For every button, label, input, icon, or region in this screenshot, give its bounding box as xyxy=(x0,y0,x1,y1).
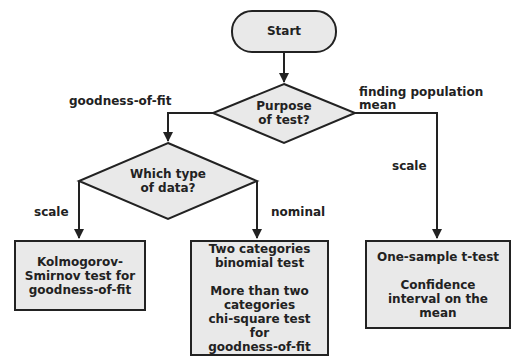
chi-line-4: for xyxy=(250,326,269,340)
binomial-chisquare-process-box: Two categories binomial test More than t… xyxy=(190,240,329,356)
binom-line-2: binomial test xyxy=(215,256,304,270)
ks-process-box: Kolmogorov- Smirnov test for goodness-of… xyxy=(14,240,146,311)
chi-line-5: goodness-of-fit xyxy=(208,340,310,354)
edge-label-scale-right: scale xyxy=(392,160,427,173)
datatype-line-2: of data? xyxy=(108,181,228,195)
finding-line-2: mean xyxy=(359,99,483,112)
ttest-line-1: One-sample t-test xyxy=(377,250,499,264)
ttest-process-box: One-sample t-test Confidence interval on… xyxy=(365,240,511,329)
start-label: Start xyxy=(232,24,336,38)
edge-label-nominal: nominal xyxy=(271,206,325,219)
ks-line-3: goodness-of-fit xyxy=(29,283,131,297)
datatype-label: Which type of data? xyxy=(108,167,228,195)
ks-line-2: Smirnov test for xyxy=(25,269,135,283)
ks-line-1: Kolmogorov- xyxy=(37,255,123,269)
ci-line-3: mean xyxy=(419,306,456,320)
edge-label-finding-population-mean: finding population mean xyxy=(359,86,483,112)
chi-line-2: categories xyxy=(224,298,295,312)
ci-line-1: Confidence xyxy=(400,278,475,292)
edge-purpose-datatype xyxy=(168,113,213,141)
ci-line-2: interval on the xyxy=(388,292,488,306)
purpose-line-1: Purpose xyxy=(224,99,344,113)
purpose-line-2: of test? xyxy=(224,113,344,127)
edge-label-scale-left: scale xyxy=(34,206,69,219)
binom-line-1: Two categories xyxy=(209,242,311,256)
purpose-label: Purpose of test? xyxy=(224,99,344,127)
edge-label-goodness-of-fit: goodness-of-fit xyxy=(69,95,171,108)
edge-purpose-ttest xyxy=(355,113,437,238)
datatype-line-1: Which type xyxy=(108,167,228,181)
chi-line-3: chi-square test xyxy=(208,312,310,326)
chi-line-1: More than two xyxy=(210,284,309,298)
